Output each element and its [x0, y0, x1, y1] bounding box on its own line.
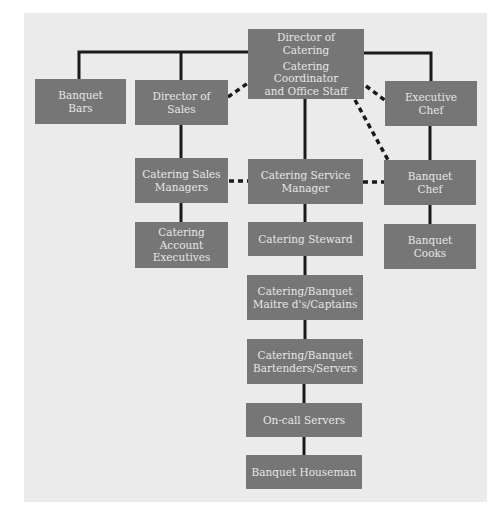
node-bartenders-servers: Catering/Banquet Bartenders/Servers [247, 339, 363, 384]
node-catering-steward: Catering Steward [248, 222, 363, 256]
node-catering-sales-managers: Catering Sales Managers [135, 158, 228, 203]
node-label: Account [160, 239, 203, 252]
node-label: On-call Servers [263, 414, 345, 427]
node-director-of-sales: Director of Sales [135, 80, 228, 125]
node-label: Bars [68, 102, 92, 115]
node-label: Catering Service [261, 169, 351, 182]
node-maitre-d-captains: Catering/Banquet Maitre d's/Captains [247, 275, 363, 320]
node-label: Executives [153, 251, 211, 264]
node-label: Catering Sales [142, 168, 220, 181]
node-label: Manager [282, 182, 330, 195]
node-label: Catering Steward [258, 233, 353, 246]
node-label: Director of [277, 31, 335, 44]
node-executive-chef: Executive Chef [385, 81, 477, 126]
node-label: Banquet [58, 89, 103, 102]
node-director-of-catering: Director of Catering Catering Coordinato… [248, 29, 364, 99]
node-label: Chef [418, 183, 443, 196]
node-label: Catering [158, 226, 205, 239]
node-label: Managers [155, 181, 208, 194]
node-label: Maitre d's/Captains [253, 298, 358, 311]
node-banquet-chef: Banquet Chef [384, 160, 476, 205]
node-label: Executive [405, 91, 457, 104]
node-label: Cooks [414, 247, 446, 260]
node-on-call-servers: On-call Servers [246, 403, 362, 437]
node-label: Catering Coordinator [252, 60, 360, 85]
node-catering-service-manager: Catering Service Manager [248, 159, 363, 204]
node-label: Banquet Houseman [252, 466, 357, 479]
node-banquet-houseman: Banquet Houseman [246, 455, 362, 489]
node-label: Catering [283, 44, 330, 57]
node-catering-account-executives: Catering Account Executives [135, 222, 228, 268]
node-label: Director of [153, 90, 211, 103]
node-label: Banquet [408, 234, 453, 247]
node-label: Bartenders/Servers [253, 362, 357, 375]
node-label: and Office Staff [264, 85, 347, 98]
node-banquet-bars: Banquet Bars [35, 79, 126, 124]
node-label: Chef [419, 104, 444, 117]
node-label: Banquet [408, 170, 453, 183]
node-label: Sales [167, 103, 195, 116]
node-label: Catering/Banquet [258, 285, 353, 298]
node-banquet-cooks: Banquet Cooks [384, 224, 476, 269]
node-label: Catering/Banquet [258, 349, 353, 362]
